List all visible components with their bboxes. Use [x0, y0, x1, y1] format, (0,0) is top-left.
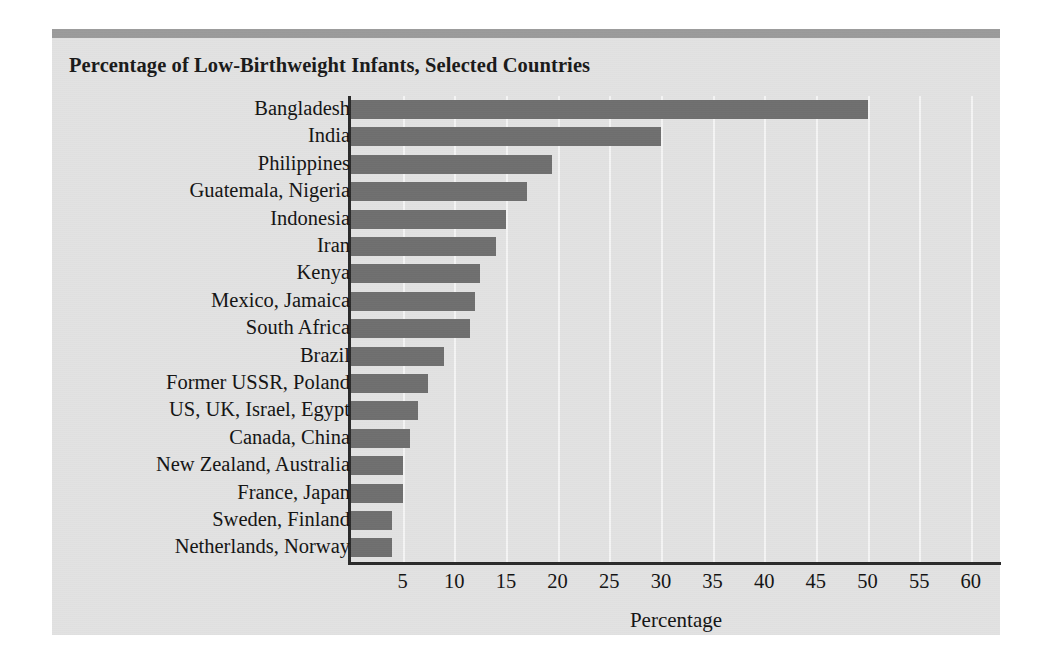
bar [351, 292, 475, 311]
x-tick-label: 20 [547, 570, 568, 593]
bar [351, 264, 480, 283]
x-tick-label: 25 [599, 570, 620, 593]
bar [351, 429, 410, 448]
bar [351, 319, 470, 338]
bar-row: Guatemala, Nigeria [351, 178, 1001, 205]
bar [351, 155, 552, 174]
category-label: Philippines [258, 152, 350, 175]
x-tick-label: 30 [651, 570, 672, 593]
bar-row: Former USSR, Poland [351, 370, 1001, 397]
category-label: Bangladesh [254, 97, 350, 120]
bar-row: US, UK, Israel, Egypt [351, 397, 1001, 424]
x-tick-label: 10 [444, 570, 465, 593]
bar-row: Mexico, Jamaica [351, 288, 1001, 315]
category-label: Kenya [296, 261, 350, 284]
bar-row: Canada, China [351, 425, 1001, 452]
bar [351, 237, 496, 256]
panel-top-rule [52, 29, 1000, 38]
category-label: Former USSR, Poland [166, 371, 350, 394]
category-label: Brazil [300, 344, 350, 367]
bar-row: France, Japan [351, 480, 1001, 507]
x-tick-label: 60 [961, 570, 982, 593]
x-tick-label: 55 [909, 570, 930, 593]
bar [351, 538, 392, 557]
x-tick-label: 35 [702, 570, 723, 593]
bar [351, 401, 418, 420]
category-label: US, UK, Israel, Egypt [169, 398, 350, 421]
category-label: Mexico, Jamaica [211, 289, 350, 312]
category-label: Guatemala, Nigeria [189, 179, 350, 202]
x-tick-label: 50 [857, 570, 878, 593]
bar [351, 484, 403, 503]
category-label: Netherlands, Norway [175, 535, 350, 558]
category-label: South Africa [246, 316, 350, 339]
bar-row: New Zealand, Australia [351, 452, 1001, 479]
bar [351, 210, 506, 229]
bar-row: Kenya [351, 260, 1001, 287]
x-tick-label: 15 [496, 570, 517, 593]
bar-row: Sweden, Finland [351, 507, 1001, 534]
bar [351, 182, 527, 201]
chart-title: Percentage of Low-Birthweight Infants, S… [69, 54, 590, 77]
x-tick-label: 5 [398, 570, 408, 593]
category-label: France, Japan [237, 481, 350, 504]
category-label: India [308, 124, 350, 147]
x-axis-title: Percentage [351, 608, 1001, 633]
bar-row: Bangladesh [351, 96, 1001, 123]
bar [351, 127, 661, 146]
bar-row: Brazil [351, 343, 1001, 370]
bar [351, 374, 428, 393]
category-label: New Zealand, Australia [156, 453, 350, 476]
scanned-page: Percentage of Low-Birthweight Infants, S… [0, 0, 1050, 659]
bar [351, 100, 868, 119]
bar-row: Indonesia [351, 206, 1001, 233]
bar-row: Philippines [351, 151, 1001, 178]
category-label: Indonesia [270, 207, 350, 230]
bar [351, 347, 444, 366]
x-tick-label: 40 [754, 570, 775, 593]
category-label: Iran [317, 234, 350, 257]
bar-row: Iran [351, 233, 1001, 260]
bar [351, 456, 403, 475]
bar-row: India [351, 123, 1001, 150]
chart-panel: Percentage of Low-Birthweight Infants, S… [52, 29, 1000, 635]
x-tick-label: 45 [806, 570, 827, 593]
bar [351, 511, 392, 530]
category-label: Canada, China [229, 426, 350, 449]
category-label: Sweden, Finland [212, 508, 350, 531]
bar-row: Netherlands, Norway [351, 534, 1001, 561]
bar-row: South Africa [351, 315, 1001, 342]
plot-area: BangladeshIndiaPhilippinesGuatemala, Nig… [351, 96, 1001, 562]
x-axis-line [348, 562, 1001, 565]
